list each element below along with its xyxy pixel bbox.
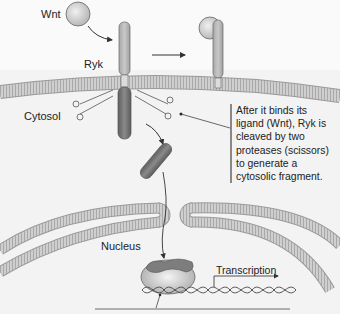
ryk-label: Ryk [84, 58, 103, 70]
caption-line: ligand (Wnt), Ryk is [236, 117, 340, 130]
transcription-label: Transcription [216, 264, 276, 276]
caption-line: After it binds its [236, 104, 340, 117]
caption-line: cytosolic fragment. [236, 170, 340, 183]
cytosol-label: Cytosol [24, 110, 61, 122]
wnt-label: Wnt [41, 8, 61, 20]
diagram: Wnt Ryk Cytosol Nucleus Transcription Af… [0, 0, 340, 314]
caption-line: to generate a [236, 157, 340, 170]
wnt-ligand [66, 2, 90, 26]
nucleus-label: Nucleus [101, 240, 141, 252]
caption: After it binds its ligand (Wnt), Ryk is … [230, 104, 340, 183]
caption-line: proteases (scissors) [236, 144, 340, 157]
caption-line: cleaved by two [236, 130, 340, 143]
